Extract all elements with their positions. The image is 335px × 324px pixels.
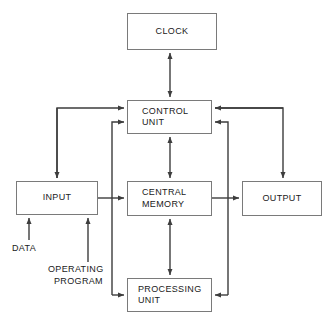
label-data-text: DATA [12, 243, 36, 255]
node-central-memory-label-1: CENTRAL [142, 187, 186, 199]
label-operating-text: OPERATING [48, 264, 104, 276]
connector-input-control [57, 108, 124, 178]
node-output[interactable]: OUTPUT [242, 181, 322, 216]
node-central-memory[interactable]: CENTRAL MEMORY [127, 181, 212, 216]
node-input[interactable]: INPUT [16, 181, 98, 215]
node-clock-label: CLOCK [156, 26, 189, 38]
node-output-label: OUTPUT [262, 193, 301, 205]
label-operating-program: OPERATING PROGRAM [48, 264, 104, 287]
node-processing-unit[interactable]: PROCESSING UNIT [127, 278, 212, 312]
node-processing-unit-label-1: PROCESSING [138, 284, 202, 296]
node-control-unit[interactable]: CONTROL UNIT [127, 100, 212, 134]
node-input-label: INPUT [43, 192, 72, 204]
node-control-unit-label-1: CONTROL [142, 106, 188, 118]
node-central-memory-label-2: MEMORY [142, 199, 184, 211]
label-program-text: PROGRAM [48, 276, 104, 288]
connector-processing-control-right [215, 122, 228, 295]
connector-control-output [215, 108, 283, 178]
node-processing-unit-label-2: UNIT [138, 295, 160, 307]
node-clock[interactable]: CLOCK [127, 13, 217, 50]
connector-processing-control [112, 122, 124, 295]
label-data: DATA [12, 243, 36, 255]
node-control-unit-label-2: UNIT [142, 117, 164, 129]
block-diagram: CLOCK CONTROL UNIT INPUT CENTRAL MEMORY … [0, 0, 335, 324]
